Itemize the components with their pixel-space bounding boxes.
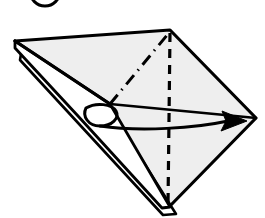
origami-diagram-svg <box>0 0 265 218</box>
step-circle-icon <box>30 0 60 6</box>
origami-diagram-root <box>0 0 265 218</box>
step-number-marker <box>30 0 60 6</box>
